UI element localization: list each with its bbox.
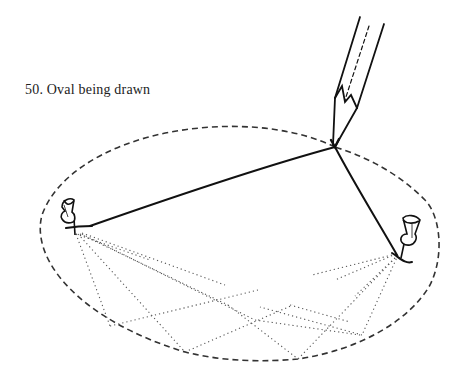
dashed-oval-outline	[40, 126, 439, 360]
string-loop	[66, 147, 412, 262]
dotted-string-positions	[76, 233, 398, 359]
pencil-icon	[331, 17, 384, 147]
right-pushpin-icon	[401, 216, 420, 258]
oval-drawing-diagram	[0, 0, 464, 380]
left-pushpin-icon	[61, 199, 75, 235]
